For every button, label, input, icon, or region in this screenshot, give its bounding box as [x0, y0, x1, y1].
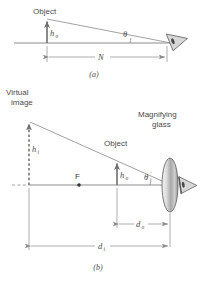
- panel-b-image-height-label: h: [32, 144, 36, 154]
- panel-b-focal-point-label: F: [75, 172, 80, 181]
- panel-a-object-label: Object: [33, 7, 57, 16]
- panel-a-theta-label: θ: [123, 29, 127, 39]
- panel-b-caption: (b): [93, 263, 103, 272]
- magnifying-glass-lens: [162, 158, 178, 212]
- panel-a-caption: (a): [89, 70, 99, 79]
- figure-container: Object h o θ N (a): [0, 0, 204, 281]
- panel-a-object-height-label: h: [50, 28, 54, 38]
- panel-b-virtual-image-label-line1: Virtual: [6, 88, 29, 97]
- panel-b-eye-icon: [179, 174, 198, 193]
- panel-b-magnifier-label-line1: Magnifying: [138, 110, 177, 119]
- panel-b-image-height-subscript: i: [38, 149, 40, 155]
- panel-b-object-distance-subscript: o: [142, 224, 145, 230]
- panel-b-theta-prime-label: θ: [144, 172, 148, 182]
- panel-b-virtual-image-label-line2: image: [11, 98, 33, 107]
- panel-a-distance-label: N: [97, 52, 105, 62]
- panel-b-theta-prime-arc: [150, 178, 151, 185]
- panel-b-focal-point-dot: [77, 183, 81, 187]
- panel-b-object-label: Object: [104, 139, 128, 148]
- panel-a-eye-icon: [166, 27, 189, 50]
- panel-b-group: Virtual image h i F Object h o θ ′: [6, 88, 198, 272]
- panel-b-object-height-label: h: [120, 170, 124, 180]
- panel-a-object-height-subscript: o: [56, 33, 59, 39]
- panel-b-image-distance-subscript: i: [104, 246, 106, 252]
- optics-figure: Object h o θ N (a): [0, 0, 204, 281]
- panel-b-object-height-subscript: o: [126, 175, 129, 181]
- panel-b-image-distance-label: d: [98, 241, 103, 251]
- panel-b-magnifier-label-line2: glass: [152, 120, 171, 129]
- panel-a-group: Object h o θ N (a): [14, 7, 190, 79]
- panel-a-ray-line: [47, 19, 171, 43]
- panel-a-theta-arc: [130, 38, 131, 43]
- panel-b-object-distance-label: d: [136, 219, 141, 229]
